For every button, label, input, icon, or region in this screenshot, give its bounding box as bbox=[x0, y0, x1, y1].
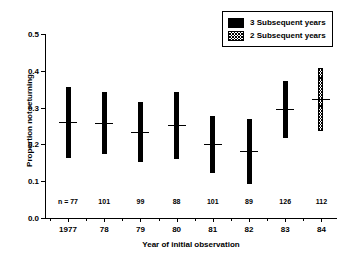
x-minor-tick-mark bbox=[267, 218, 268, 221]
y-tick-mark bbox=[41, 108, 45, 109]
legend-label-solid: 3 Subsequent years bbox=[250, 18, 326, 27]
x-minor-tick-mark bbox=[50, 218, 51, 221]
x-tick-label-79: 79 bbox=[136, 225, 145, 234]
x-minor-tick-mark bbox=[195, 218, 196, 221]
y-tick-mark bbox=[41, 218, 45, 219]
legend-swatch-solid-icon bbox=[228, 18, 244, 28]
x-tick-label-84: 84 bbox=[317, 225, 326, 234]
legend: 3 Subsequent years 2 Subsequent years bbox=[222, 11, 333, 47]
sample-size-label-78: 101 bbox=[98, 198, 110, 205]
y-tick-mark bbox=[41, 181, 45, 182]
legend-item-solid: 3 Subsequent years bbox=[228, 16, 326, 29]
x-tick-mark-84 bbox=[321, 218, 322, 222]
x-minor-tick-mark bbox=[159, 218, 160, 221]
x-minor-tick-mark bbox=[122, 218, 123, 221]
y-tick-mark bbox=[41, 34, 45, 35]
mean-marker-80 bbox=[168, 125, 186, 126]
legend-swatch-hatched-icon bbox=[228, 31, 244, 41]
y-tick-label: 0.1 bbox=[28, 177, 39, 186]
x-tick-mark-78 bbox=[104, 218, 105, 222]
plot-area: 0.00.10.20.30.40.5 197778798081828384 n … bbox=[45, 34, 337, 218]
x-axis-line bbox=[45, 218, 337, 219]
mean-marker-84 bbox=[312, 99, 330, 100]
mean-marker-82 bbox=[240, 151, 258, 152]
chart-figure: Proportion not returning 0.00.10.20.30.4… bbox=[0, 0, 352, 258]
y-tick-mark bbox=[41, 71, 45, 72]
sample-size-label-84: 112 bbox=[316, 198, 327, 205]
sample-size-label-79: 99 bbox=[136, 198, 144, 205]
y-tick-label: 0.3 bbox=[28, 103, 39, 112]
x-minor-tick-mark bbox=[303, 218, 304, 221]
x-axis-title: Year of initial observation bbox=[45, 240, 337, 249]
mean-marker-79 bbox=[131, 132, 149, 133]
sample-size-label-82: 89 bbox=[245, 198, 253, 205]
x-tick-mark-79 bbox=[140, 218, 141, 222]
mean-marker-81 bbox=[204, 144, 222, 145]
legend-item-hatched: 2 Subsequent years bbox=[228, 29, 326, 42]
x-tick-mark-83 bbox=[285, 218, 286, 222]
y-tick-label: 0.2 bbox=[28, 140, 39, 149]
y-tick-mark bbox=[41, 144, 45, 145]
y-tick-label: 0.4 bbox=[28, 66, 39, 75]
x-tick-label-78: 78 bbox=[100, 225, 109, 234]
x-tick-label-82: 82 bbox=[245, 225, 254, 234]
x-tick-mark-1977 bbox=[68, 218, 69, 222]
x-tick-label-1977: 1977 bbox=[59, 225, 77, 234]
mean-marker-1977 bbox=[59, 122, 77, 123]
x-tick-label-83: 83 bbox=[281, 225, 290, 234]
y-tick-label: 0.5 bbox=[28, 30, 39, 39]
mean-marker-83 bbox=[276, 109, 294, 110]
y-tick-label: 0.0 bbox=[28, 214, 39, 223]
mean-marker-78 bbox=[95, 123, 113, 124]
x-minor-tick-mark bbox=[231, 218, 232, 221]
sample-size-label-83: 126 bbox=[279, 198, 291, 205]
x-tick-mark-81 bbox=[213, 218, 214, 222]
legend-label-hatched: 2 Subsequent years bbox=[250, 31, 326, 40]
x-tick-label-80: 80 bbox=[172, 225, 181, 234]
x-tick-label-81: 81 bbox=[208, 225, 217, 234]
sample-size-label-81: 101 bbox=[207, 198, 219, 205]
sample-size-label-1977: n = 77 bbox=[58, 198, 78, 205]
x-tick-mark-82 bbox=[249, 218, 250, 222]
x-tick-mark-80 bbox=[177, 218, 178, 222]
x-minor-tick-mark bbox=[86, 218, 87, 221]
sample-size-label-80: 88 bbox=[173, 198, 181, 205]
